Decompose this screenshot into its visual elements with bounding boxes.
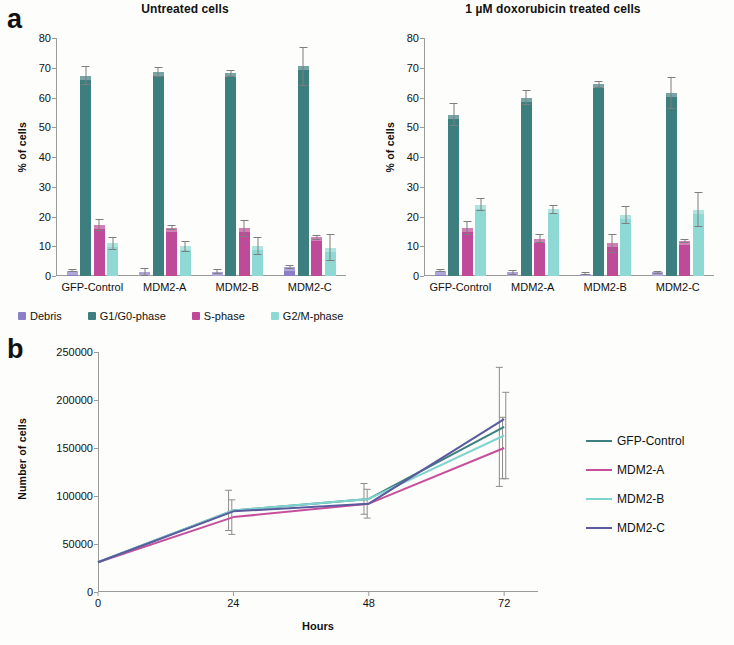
figure-root: a Untreated cells % of cells 01020304050… <box>0 0 734 645</box>
y-tick-mark <box>420 38 424 39</box>
error-bar-cap <box>509 270 517 271</box>
legend-label: MDM2-B <box>617 492 664 506</box>
bar <box>679 241 690 276</box>
error-bar <box>289 265 290 269</box>
error-bar-cap <box>82 84 90 85</box>
y-tick-mark <box>94 352 98 353</box>
y-tick-mark <box>52 127 56 128</box>
error-bar-cap <box>109 237 117 238</box>
legend-label: G1/G0-phase <box>100 310 166 322</box>
y-tick-label: 60 <box>39 92 51 104</box>
legend-item: Debris <box>18 310 62 322</box>
error-bar <box>440 269 441 271</box>
bar <box>475 205 486 276</box>
y-tick-mark <box>52 187 56 188</box>
error-bar-cap <box>595 87 603 88</box>
y-tick-label: 80 <box>407 32 419 44</box>
error-bar-cap <box>450 125 458 126</box>
x-category-label: MDM2-C <box>288 281 332 293</box>
y-tick-label: 0 <box>87 586 93 598</box>
legend-label: MDM2-A <box>617 463 664 477</box>
error-bar-cap <box>681 239 689 240</box>
error-bar-cap <box>141 275 149 276</box>
error-bar <box>257 237 258 255</box>
y-tick-mark <box>52 217 56 218</box>
y-tick-mark <box>94 544 98 545</box>
error-bar-cap <box>622 223 630 224</box>
y-tick-label: 70 <box>407 62 419 74</box>
y-tick-mark <box>420 276 424 277</box>
y-tick-label: 20 <box>407 211 419 223</box>
error-bar <box>99 219 100 231</box>
error-bar <box>230 70 231 77</box>
legend-line-icon <box>586 527 612 530</box>
error-bar-cap <box>622 206 630 207</box>
y-tick-label: 20 <box>39 211 51 223</box>
y-tick-label: 250000 <box>56 346 93 358</box>
legend-item: MDM2-B <box>586 492 684 506</box>
x-tick-label: 72 <box>498 597 510 609</box>
y-tick-label: 30 <box>407 181 419 193</box>
error-bar <box>625 206 626 224</box>
error-bar <box>480 198 481 211</box>
legend-item: MDM2-A <box>586 463 684 477</box>
error-bar-cap <box>326 234 334 235</box>
error-bar-cap <box>326 260 334 261</box>
error-bar-cap <box>522 90 530 91</box>
error-bar-cap <box>82 66 90 67</box>
y-tick-mark <box>94 400 98 401</box>
error-bar <box>612 234 613 253</box>
y-tick-label: 150000 <box>56 442 93 454</box>
error-bar <box>171 225 172 231</box>
error-bar-cap <box>213 269 221 270</box>
y-tick-mark <box>52 276 56 277</box>
line-chart-legend: GFP-ControlMDM2-AMDM2-BMDM2-C <box>586 434 684 550</box>
bar <box>521 98 532 277</box>
bar <box>166 228 177 276</box>
plot-area-untreated: 01020304050607080GFP-ControlMDM2-AMDM2-B… <box>56 38 346 276</box>
y-tick-mark <box>94 448 98 449</box>
error-bar <box>316 235 317 240</box>
error-bar-cap <box>299 47 307 48</box>
error-bar <box>158 67 159 78</box>
error-bar-cap <box>141 268 149 269</box>
y-tick-mark <box>52 38 56 39</box>
legend-item: S-phase <box>192 310 245 322</box>
bar <box>666 93 677 276</box>
error-bar-cap <box>450 103 458 104</box>
error-bar-cap <box>694 226 702 227</box>
y-tick-label: 10 <box>39 240 51 252</box>
error-bar-cap <box>595 81 603 82</box>
error-bar <box>539 234 540 243</box>
y-tick-label: 0 <box>45 270 51 282</box>
x-category-label: MDM2-B <box>216 281 259 293</box>
error-bar-cap <box>227 76 235 77</box>
y-tick-label: 100000 <box>56 490 93 502</box>
error-bar-cap <box>581 274 589 275</box>
plot-area-doxorubicin: 01020304050607080GFP-ControlMDM2-AMDM2-B… <box>424 38 714 276</box>
legend-swatch-icon <box>192 312 200 320</box>
bar-chart-doxorubicin: 1 µM doxorubicin treated cells % of cell… <box>378 2 728 302</box>
error-bar-cap <box>667 108 675 109</box>
legend-label: GFP-Control <box>617 434 684 448</box>
error-bar-cap <box>109 249 117 250</box>
error-bar-cap <box>436 271 444 272</box>
y-tick-label: 0 <box>413 270 419 282</box>
error-bar-cap <box>477 198 485 199</box>
x-tick-label: 0 <box>95 597 101 609</box>
error-bar-cap <box>463 234 471 235</box>
error-bar-cap <box>181 241 189 242</box>
error-bar <box>467 221 468 235</box>
error-bar <box>585 272 586 274</box>
y-axis-line <box>424 38 425 276</box>
chart-title-untreated: Untreated cells <box>10 2 360 16</box>
legend-item: G1/G0-phase <box>88 310 166 322</box>
bar <box>80 76 91 276</box>
y-tick-mark <box>420 217 424 218</box>
error-bar-cap <box>154 67 162 68</box>
legend-item: MDM2-C <box>586 521 684 535</box>
bar <box>448 115 459 276</box>
error-bar <box>553 205 554 214</box>
error-bar-cap <box>286 265 294 266</box>
error-bar-cap <box>522 104 530 105</box>
